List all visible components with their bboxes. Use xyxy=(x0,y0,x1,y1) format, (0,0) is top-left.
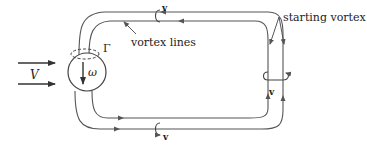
starting-vortex-label: starting vortex xyxy=(283,11,366,24)
vortex-lines-pointer xyxy=(124,22,136,34)
velocity-label-bottom: v xyxy=(162,132,169,142)
freestream-label: V xyxy=(30,68,40,82)
wing-section-circle xyxy=(68,53,106,91)
swirl-icon-right xyxy=(264,72,289,80)
line-direction-arrows xyxy=(114,10,286,132)
vortex-lines-label: vortex lines xyxy=(130,36,196,49)
vorticity-label: ω xyxy=(88,66,97,79)
vortex-diagram: V Γ ω v v v vortex lines starting vortex xyxy=(0,0,367,150)
starting-vortex-pointer-inner xyxy=(270,17,279,44)
velocity-label-top: v xyxy=(161,3,168,13)
circulation-label: Γ xyxy=(103,42,111,55)
velocity-label-right: v xyxy=(268,87,275,97)
